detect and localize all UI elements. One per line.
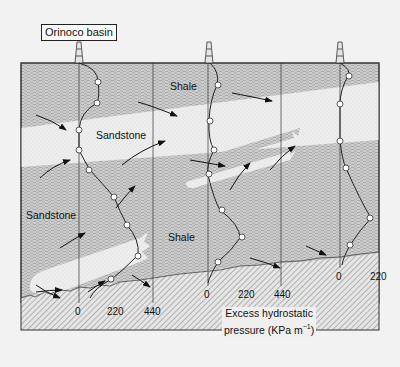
label-shale-top: Shale bbox=[170, 80, 197, 92]
label-shale-lower: Shale bbox=[168, 231, 195, 243]
well-3-tick-0: 0 bbox=[336, 271, 342, 282]
well-1-tick-0: 0 bbox=[75, 306, 81, 317]
basin-title: Orinoco basin bbox=[41, 24, 117, 41]
derrick-icon-3 bbox=[336, 42, 344, 63]
axis-caption-end: ) bbox=[311, 324, 315, 336]
well-2-tick-220: 220 bbox=[238, 289, 255, 300]
well-3-tick-220: 220 bbox=[370, 271, 387, 282]
derrick-icon-2 bbox=[205, 42, 213, 63]
well-1-tick-220: 220 bbox=[107, 306, 124, 317]
well-2-tick-440: 440 bbox=[274, 289, 291, 300]
well-2-tick-0: 0 bbox=[204, 289, 210, 300]
cross-section-diagram bbox=[0, 0, 400, 367]
label-sandstone-upper: Sandstone bbox=[96, 129, 146, 141]
axis-caption-line1: Excess hydrostatic bbox=[225, 307, 313, 319]
axis-caption-line2: pressure (KPa m bbox=[224, 324, 303, 336]
label-sandstone-lower: Sandstone bbox=[26, 209, 76, 221]
axis-caption-sup: −1 bbox=[303, 323, 311, 330]
well-1-tick-440: 440 bbox=[144, 306, 161, 317]
axis-caption: Excess hydrostatic pressure (KPa m−1) bbox=[222, 307, 316, 337]
derrick-icon-1 bbox=[75, 42, 83, 63]
